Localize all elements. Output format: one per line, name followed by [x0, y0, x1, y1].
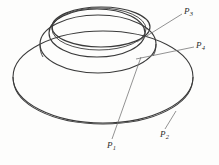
outer-disk-thickness-arc: [14, 82, 193, 124]
point-label-p1-letter: P: [107, 140, 113, 150]
disk-edge-left-tick: [13, 77, 14, 82]
collar-top-rim-ellipse-second: [52, 8, 146, 50]
point-label-p1-subscript: 1: [113, 144, 116, 151]
point-label-p1: P1: [107, 141, 116, 150]
point-label-p4-letter: P: [196, 40, 202, 50]
figure-torus-diagram: P1 P2 P3 P4: [0, 0, 219, 165]
point-label-p2: P2: [160, 130, 169, 139]
disk-edge-right-tick: [193, 77, 194, 82]
point-label-p3-subscript: 3: [190, 10, 193, 17]
collar-top-rim-ellipse: [52, 7, 150, 47]
point-label-p3-letter: P: [184, 6, 190, 16]
point-label-p3: P3: [184, 7, 193, 16]
point-label-p4-subscript: 4: [202, 44, 205, 51]
point-label-p2-subscript: 2: [166, 133, 169, 140]
leader-line-p2: [165, 111, 176, 129]
point-label-p2-letter: P: [160, 129, 166, 139]
leader-line-p4: [136, 47, 194, 59]
point-label-p4: P4: [196, 41, 205, 50]
